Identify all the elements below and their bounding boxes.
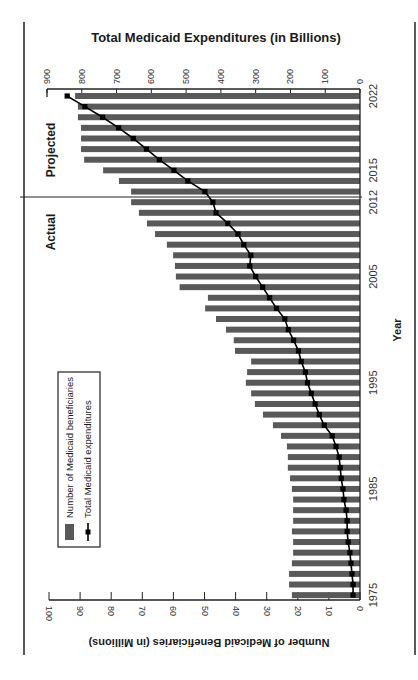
top-axis-tick-label: 100	[320, 69, 330, 84]
marker-1996	[303, 370, 308, 375]
marker-1979	[347, 550, 352, 555]
marker-2012	[210, 200, 215, 205]
bottom-axis-tick-label: 30	[262, 606, 272, 616]
chart-canvas: Total Medicaid Expenditures (in Billions…	[0, 0, 418, 680]
top-axis-tick-label: 900	[42, 69, 52, 84]
marker-2008	[241, 242, 246, 247]
bar-2022	[75, 93, 360, 99]
expenditure-axis: 0100200300400500600700800900	[42, 69, 365, 97]
top-axis-tick-label: 0	[355, 79, 365, 84]
marker-2015	[171, 168, 176, 173]
marker-1987	[338, 465, 343, 470]
actual-label: Actual	[44, 214, 58, 251]
marker-1984	[341, 497, 346, 502]
bar-1995	[246, 380, 360, 386]
year-label-1975: 1975	[367, 583, 379, 607]
year-label-1985: 1985	[367, 477, 379, 501]
bar-2020	[78, 114, 360, 120]
legend-line-label: Total Medicaid expenditures	[82, 400, 93, 518]
marker-1988	[337, 454, 342, 459]
bar-1992	[263, 412, 360, 418]
bar-2006	[175, 263, 360, 269]
marker-1991	[322, 423, 327, 428]
bar-1982	[293, 518, 360, 524]
legend-marker-icon	[86, 530, 91, 535]
year-label-2015: 2015	[367, 158, 379, 182]
marker-1995	[305, 380, 310, 385]
marker-1999	[291, 338, 296, 343]
bottom-axis-tick-label: 100	[44, 606, 54, 621]
marker-1990	[330, 433, 335, 438]
marker-1994	[309, 391, 314, 396]
bottom-axis-tick-label: 20	[293, 606, 303, 616]
marker-2001	[282, 316, 287, 321]
top-axis-tick-label: 600	[146, 69, 156, 84]
marker-2009	[235, 231, 240, 236]
bar-1999	[234, 337, 360, 343]
bar-2008	[167, 242, 360, 248]
bar-2021	[78, 104, 360, 110]
marker-2018	[131, 136, 136, 141]
marker-1993	[313, 401, 318, 406]
bottom-axis-tick-label: 40	[231, 606, 241, 616]
marker-2002	[274, 306, 279, 311]
bottom-axis-tick-label: 10	[324, 606, 334, 616]
bar-1976	[289, 582, 360, 588]
marker-2021	[82, 104, 87, 109]
bar-1985	[292, 486, 360, 492]
marker-2005	[253, 274, 258, 279]
bar-2017	[81, 146, 360, 152]
bar-1997	[251, 359, 360, 365]
marker-1982	[345, 518, 350, 523]
marker-1980	[346, 539, 351, 544]
bar-1993	[255, 401, 360, 407]
marker-1985	[340, 486, 345, 491]
bar-1981	[292, 528, 360, 534]
bar-1975	[292, 592, 360, 598]
marker-2011	[213, 210, 218, 215]
bar-2011	[139, 210, 360, 216]
top-axis-tick-label: 700	[112, 69, 122, 84]
bottom-axis-tick-label: 50	[200, 606, 210, 616]
top-axis-tick-label: 800	[77, 69, 87, 84]
year-label-2012: 2012	[367, 190, 379, 214]
marker-1997	[299, 359, 304, 364]
marker-1975	[350, 593, 355, 598]
top-axis-tick-label: 400	[216, 69, 226, 84]
bar-2004	[180, 284, 360, 290]
bar-1991	[273, 422, 360, 428]
marker-1981	[345, 529, 350, 534]
bar-1994	[251, 390, 360, 396]
bottom-axis-tick-label: 70	[137, 606, 147, 616]
beneficiaries-bars	[75, 93, 360, 598]
marker-1978	[348, 561, 353, 566]
marker-1998	[296, 348, 301, 353]
x-axis-title: Year	[391, 318, 403, 342]
marker-2000	[286, 327, 291, 332]
marker-1976	[350, 582, 355, 587]
bar-2015	[103, 167, 360, 173]
marker-1986	[339, 476, 344, 481]
bar-2000	[226, 327, 360, 333]
bar-2016	[84, 157, 360, 163]
top-axis-tick-label: 300	[251, 69, 261, 84]
rotated-medicaid-chart: Total Medicaid Expenditures (in Billions…	[0, 0, 418, 680]
bar-2013	[131, 189, 360, 195]
marker-1989	[333, 444, 338, 449]
marker-2006	[247, 263, 252, 268]
bar-1988	[288, 454, 360, 460]
bar-1990	[281, 433, 360, 439]
bottom-axis-tick-label: 0	[355, 606, 365, 611]
bar-2002	[205, 305, 360, 311]
chart-title: Total Medicaid Expenditures (in Billions…	[91, 30, 341, 45]
bar-2009	[155, 231, 360, 237]
year-label-1995: 1995	[367, 370, 379, 394]
marker-1983	[343, 508, 348, 513]
bar-2014	[119, 178, 360, 184]
marker-2004	[260, 285, 265, 290]
bar-2005	[176, 274, 360, 280]
marker-2019	[116, 125, 121, 130]
bar-1987	[288, 465, 360, 471]
bottom-axis-tick-label: 80	[106, 606, 116, 616]
marker-2003	[267, 295, 272, 300]
